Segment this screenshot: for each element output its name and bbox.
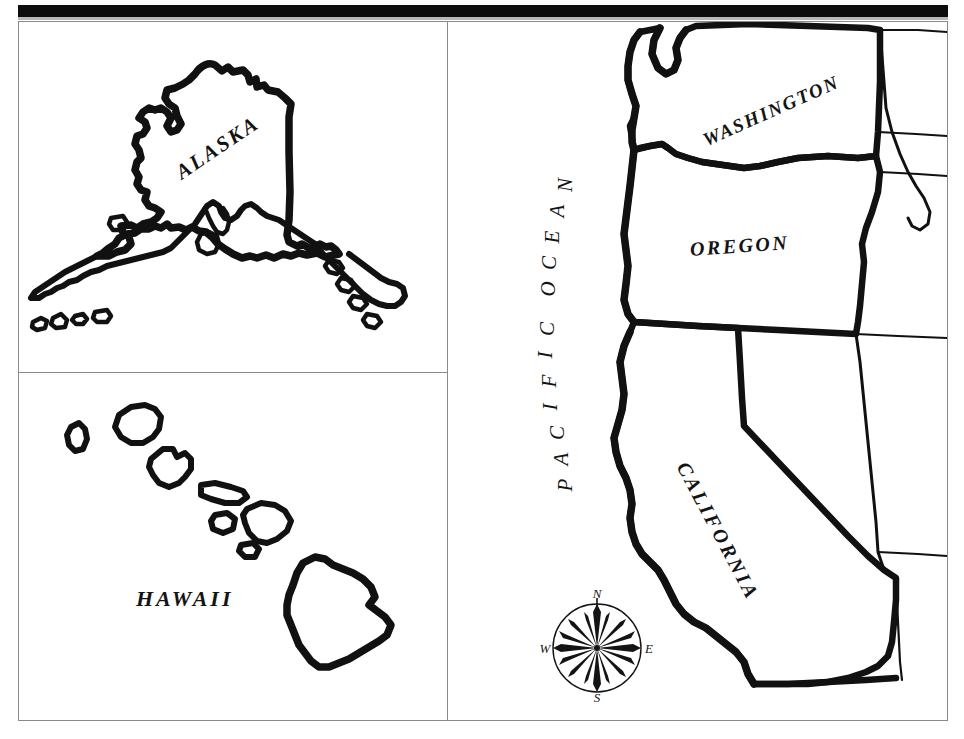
aleutian-island-1-path	[32, 318, 47, 330]
puget-sound-inlet-path	[652, 28, 686, 74]
pacific-ocean-char-11: A	[547, 205, 573, 218]
nevada-arizona-border-path	[878, 552, 947, 556]
aleutian-island-2-path	[51, 314, 67, 328]
pacific-ocean-char-12: N	[555, 178, 581, 192]
alaska-panhandle-island-2-path	[337, 278, 355, 292]
pacific-ocean-char-10: E	[542, 231, 568, 244]
california-mexico-border-path	[754, 678, 896, 684]
compass-point-s	[593, 648, 601, 692]
aleutian-island-3-path	[72, 314, 87, 324]
scan-artifact-band	[18, 5, 948, 17]
island-niihau-path	[67, 423, 87, 451]
scan-artifact-band-fade	[18, 17, 948, 20]
island-kauai-path	[115, 405, 161, 443]
compass-label-e: E	[644, 641, 653, 656]
west-coast-outline-svg	[448, 22, 947, 720]
idaho-border-path	[880, 30, 930, 230]
pacific-ocean-char-4: F	[539, 375, 565, 388]
compass-label-w: W	[540, 641, 552, 656]
hawaii-inset-panel	[19, 373, 447, 720]
idaho-north-border-path	[880, 30, 947, 32]
alaska-panhandle-island-3-path	[349, 296, 367, 310]
washington-idaho-edge-path	[878, 132, 947, 136]
alaska-outline-svg	[19, 22, 447, 372]
island-kahoolawe-path	[239, 543, 259, 557]
island-hawaii-big-path	[287, 557, 391, 667]
pacific-ocean-char-0: P	[555, 479, 581, 492]
pacific-ocean-char-6: C	[537, 322, 563, 336]
nevada-north-border-path	[856, 334, 947, 338]
pacific-ocean-char-3: I	[540, 404, 566, 411]
label-pacific-ocean: PACIFICOCEAN	[540, 168, 610, 498]
west-coast-main-panel	[448, 22, 947, 720]
alaska-small-island-west-path	[109, 216, 127, 230]
alaska-inset-panel	[19, 22, 447, 372]
alaska-panhandle-island-4-path	[363, 314, 381, 328]
alaska-peninsula-path	[31, 202, 315, 298]
pacific-ocean-char-2: C	[547, 426, 573, 440]
compass-rose: N E S W	[536, 586, 658, 704]
washington-coast-path	[628, 32, 640, 150]
compass-label-n: N	[592, 586, 603, 601]
aleutian-island-4-path	[93, 310, 111, 322]
island-molokai-path	[201, 483, 247, 503]
pacific-ocean-char-1: A	[551, 453, 577, 466]
island-lanai-path	[211, 513, 235, 533]
compass-rose-svg: N E S W	[536, 586, 658, 704]
compass-label-s: S	[594, 690, 601, 704]
island-oahu-path	[149, 449, 191, 487]
oregon-idaho-edge-path	[880, 172, 947, 176]
compass-point-n	[593, 604, 601, 648]
oregon-coast-path	[624, 150, 634, 322]
pacific-ocean-char-5: I	[535, 352, 561, 359]
hawaii-outline-svg	[19, 373, 447, 720]
island-maui-path	[243, 503, 291, 543]
pacific-ocean-char-9: C	[539, 256, 565, 270]
nevada-east-border-path	[856, 334, 884, 570]
compass-center-hub	[594, 645, 600, 651]
map-page: ALASKA HAWAII	[0, 0, 964, 739]
label-hawaii: HAWAII	[136, 586, 234, 612]
pacific-ocean-char-8: O	[538, 281, 564, 296]
